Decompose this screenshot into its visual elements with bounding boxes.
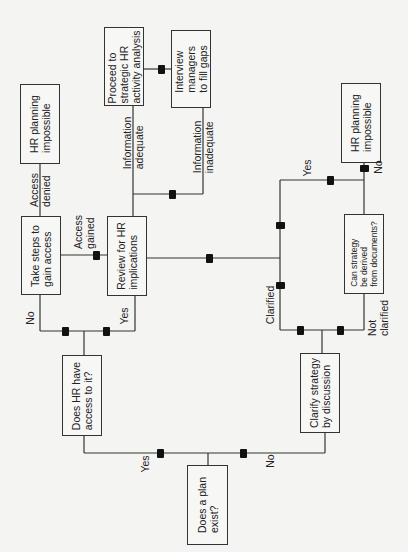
hr-planning-impossible-left-box: HR planning impossible	[20, 84, 60, 164]
does-hr-access-box: Does HR have access to it?	[62, 355, 102, 436]
label-info-adequate: Information adequate	[121, 117, 145, 170]
can-derive-box: Can strategy be derived from documents?	[344, 214, 384, 294]
label-clarified: Clarified	[264, 286, 276, 325]
label-no-derive: No	[372, 160, 384, 173]
proceed-box: Proceed to strategic HR activity analysi…	[104, 27, 144, 106]
review-box: Review for HR implications	[107, 216, 147, 296]
box-text: Does HR have access to it?	[70, 361, 94, 429]
label-no-access: No	[24, 311, 36, 324]
take-steps-box: Take steps to gain access	[21, 216, 61, 295]
box-text: Can strategy be derived from documents?	[349, 221, 379, 287]
box-text: Interview managers to fill gaps	[173, 45, 209, 92]
label-yes-plan: Yes	[139, 455, 151, 472]
box-text: Clarify strategy by discussion	[308, 358, 332, 428]
box-text: HR planning impossible	[349, 94, 373, 152]
label-yes-derive: Yes	[301, 159, 313, 176]
label-no-plan: No	[264, 454, 276, 467]
label-yes-access: Yes	[118, 307, 130, 324]
label-access-gained: Access gained	[72, 215, 96, 249]
label-not-clarified: Not clarified	[366, 300, 390, 336]
box-text: HR planning impossible	[28, 95, 52, 153]
box-text: Review for HR implications	[115, 222, 139, 290]
label-info-inadequate: Information inadequate	[191, 121, 215, 174]
plan-exist-box: Does a plan exist?	[187, 465, 228, 545]
box-text: Does a plan exist?	[196, 477, 220, 533]
clarify-box: Clarify strategy by discussion	[300, 353, 340, 433]
hr-planning-impossible-right-box: HR planning impossible	[341, 83, 381, 163]
box-text: Proceed to strategic HR activity analysi…	[106, 30, 142, 103]
box-text: Take steps to gain access	[29, 225, 53, 287]
interview-box: Interview managers to fill gaps	[171, 30, 211, 108]
label-access-denied: Access denied	[28, 173, 52, 207]
